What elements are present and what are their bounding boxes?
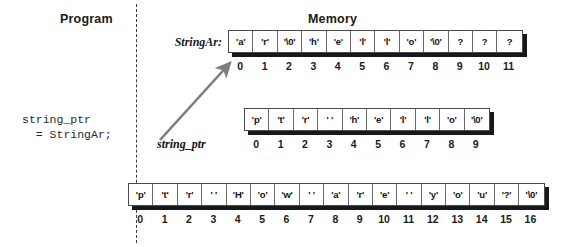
memory-cell-index: 2 (177, 213, 201, 225)
ptr-hello-array: 'p''t''r'' ''h''e''l''l''o''\0' 01234567… (244, 108, 490, 150)
memory-cell: 'l' (351, 31, 375, 52)
memory-cell-index: 9 (464, 138, 488, 150)
memory-cell-index: 1 (268, 138, 292, 150)
memory-cell-index: 1 (152, 213, 176, 225)
memory-cell-index: 14 (469, 213, 493, 225)
memory-cell-index: 6 (374, 60, 398, 72)
memory-cell-index: 8 (439, 138, 463, 150)
memory-cell: '\0' (465, 109, 489, 130)
memory-cell-index: 10 (472, 60, 496, 72)
memory-cell: 't' (269, 109, 293, 130)
memory-cell: 'o' (440, 109, 464, 130)
memory-cell: 'p' (245, 109, 269, 130)
ptr-hello-array-cells: 'p''t''r'' ''h''e''l''l''o''\0' (244, 108, 490, 131)
memory-cell: '\0' (519, 184, 543, 205)
memory-cell-index: 11 (396, 213, 420, 225)
memory-cell: '?' (495, 184, 519, 205)
memory-cell-index: 3 (317, 138, 341, 150)
memory-cell: 'e' (373, 184, 397, 205)
memory-cell: '\0' (424, 31, 448, 52)
memory-cell-index: 4 (326, 60, 350, 72)
memory-cell-index: 6 (274, 213, 298, 225)
memory-cell: 'u' (470, 184, 494, 205)
memory-cell-index: 8 (423, 60, 447, 72)
memory-cell-index: 0 (128, 213, 152, 225)
memory-cell-index: 7 (415, 138, 439, 150)
memory-cell: 'a' (324, 184, 348, 205)
ptr-hello-array-indices: 0123456789 (244, 138, 490, 150)
memory-cell: 'r' (253, 31, 277, 52)
memory-cell: ' ' (318, 109, 342, 130)
memory-cell: 'r' (349, 184, 373, 205)
ptr-how-are-you-array: 'p''t''r'' ''H''o''w'' ''a''r''e'' ''y''… (128, 183, 545, 225)
stringar-array-indices: 01234567891011 (228, 60, 523, 72)
memory-cell-index: 5 (350, 60, 374, 72)
stringar-array-cells: 'a''r''\0''h''e''l''l''o''\0'??? (228, 30, 523, 53)
memory-cell-index: 10 (372, 213, 396, 225)
memory-cell: 'h' (343, 109, 367, 130)
memory-cell: 'w' (275, 184, 299, 205)
memory-cell-index: 4 (342, 138, 366, 150)
memory-cell-index: 9 (348, 213, 372, 225)
string-ptr-label: string_ptr (157, 137, 206, 152)
memory-cell: 'o' (251, 184, 275, 205)
memory-cell-index: 2 (293, 138, 317, 150)
memory-cell-index: 9 (448, 60, 472, 72)
memory-cell: 'H' (227, 184, 251, 205)
memory-cell-index: 15 (494, 213, 518, 225)
memory-cell: ' ' (202, 184, 226, 205)
memory-cell: 'l' (416, 109, 440, 130)
memory-cell: 'o' (446, 184, 470, 205)
memory-cell: ' ' (397, 184, 421, 205)
memory-cell: 'o' (400, 31, 424, 52)
memory-cell: ' ' (300, 184, 324, 205)
memory-cell: 'e' (327, 31, 351, 52)
memory-cell: 'h' (302, 31, 326, 52)
memory-cell-index: 4 (226, 213, 250, 225)
memory-cell: 'p' (129, 184, 153, 205)
memory-cell-index: 3 (301, 60, 325, 72)
memory-cell-index: 7 (299, 213, 323, 225)
memory-cell-index: 0 (244, 138, 268, 150)
memory-cell-index: 5 (250, 213, 274, 225)
memory-cell-index: 3 (201, 213, 225, 225)
program-column-header: Program (60, 12, 113, 26)
memory-cell-index: 13 (445, 213, 469, 225)
memory-cell: 'r' (294, 109, 318, 130)
memory-cell-index: 5 (366, 138, 390, 150)
ptr-how-are-you-array-indices: 012345678910111213141516 (128, 213, 545, 225)
memory-column-header: Memory (308, 12, 357, 26)
memory-cell: 't' (153, 184, 177, 205)
memory-cell-index: 2 (277, 60, 301, 72)
ptr-how-are-you-array-cells: 'p''t''r'' ''H''o''w'' ''a''r''e'' ''y''… (128, 183, 545, 206)
memory-cell: 'l' (375, 31, 399, 52)
memory-cell-index: 6 (390, 138, 414, 150)
memory-cell: ? (449, 31, 473, 52)
stringar-array: StringAr: 'a''r''\0''h''e''l''l''o''\0'?… (228, 30, 523, 72)
memory-cell-index: 11 (496, 60, 520, 72)
memory-cell-index: 16 (518, 213, 542, 225)
memory-cell: 'r' (178, 184, 202, 205)
memory-cell-index: 8 (323, 213, 347, 225)
program-code-text: string_ptr = StringAr; (22, 112, 112, 142)
memory-cell: 'a' (229, 31, 253, 52)
memory-cell: '\0' (278, 31, 302, 52)
memory-cell-index: 12 (421, 213, 445, 225)
memory-cell: ? (473, 31, 497, 52)
memory-cell-index: 7 (399, 60, 423, 72)
memory-cell: 'l' (391, 109, 415, 130)
memory-cell-index: 0 (228, 60, 252, 72)
memory-cell-index: 1 (252, 60, 276, 72)
memory-cell: ? (497, 31, 521, 52)
stringar-array-label: StringAr: (175, 35, 222, 50)
memory-diagram: Program Memory string_ptr = StringAr; St… (0, 0, 587, 247)
memory-cell: 'y' (422, 184, 446, 205)
memory-cell: 'e' (367, 109, 391, 130)
